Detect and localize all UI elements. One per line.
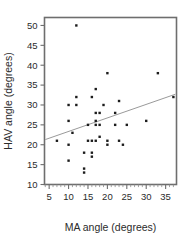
x-tick-label-5: 5 — [47, 191, 52, 202]
y-tick-label-10: 10 — [27, 179, 38, 190]
data-point — [91, 140, 93, 142]
data-point — [56, 140, 58, 142]
data-point — [122, 144, 124, 146]
data-point — [75, 24, 77, 26]
y-axis-title: HAV angle (degrees) — [2, 52, 14, 149]
data-point — [106, 144, 108, 146]
data-point — [75, 96, 77, 98]
x-tick-label-20: 20 — [102, 191, 113, 202]
data-point — [118, 100, 120, 102]
data-point — [91, 96, 93, 98]
data-point — [126, 124, 128, 126]
data-point — [67, 120, 69, 122]
x-tick-label-30: 30 — [141, 191, 152, 202]
data-point — [67, 104, 69, 106]
data-point — [106, 140, 108, 142]
y-tick-label-50: 50 — [27, 20, 38, 31]
data-point — [98, 136, 100, 138]
data-point — [95, 112, 97, 114]
data-point — [87, 140, 89, 142]
y-tick-label-30: 30 — [27, 99, 38, 110]
data-point — [95, 140, 97, 142]
data-point — [114, 124, 116, 126]
data-point — [118, 140, 120, 142]
y-tick-label-40: 40 — [27, 60, 38, 71]
x-tick-label-10: 10 — [63, 191, 74, 202]
data-point — [83, 167, 85, 169]
scatter-plot-figure: 1015202530354045505101520253035MA angle … — [0, 0, 191, 237]
data-point — [67, 144, 69, 146]
y-tick-label-15: 15 — [27, 159, 38, 170]
data-point — [95, 120, 97, 122]
x-tick-label-35: 35 — [160, 191, 171, 202]
x-tick-label-15: 15 — [83, 191, 94, 202]
data-point — [71, 132, 73, 134]
data-point — [98, 112, 100, 114]
x-tick-label-25: 25 — [122, 191, 133, 202]
data-point — [91, 155, 93, 157]
data-point — [106, 72, 108, 74]
data-point — [95, 88, 97, 90]
data-point — [102, 104, 104, 106]
y-tick-label-25: 25 — [27, 119, 38, 130]
data-point — [145, 120, 147, 122]
data-point — [95, 124, 97, 126]
y-tick-label-45: 45 — [27, 40, 38, 51]
data-point — [98, 124, 100, 126]
regression-line — [45, 94, 175, 139]
x-axis-title: MA angle (degrees) — [65, 221, 157, 233]
data-point — [157, 72, 159, 74]
data-point — [114, 112, 116, 114]
data-point — [87, 124, 89, 126]
chart-canvas: 1015202530354045505101520253035MA angle … — [0, 0, 191, 237]
data-point — [172, 96, 174, 98]
data-point — [67, 159, 69, 161]
y-tick-label-20: 20 — [27, 139, 38, 150]
data-point — [83, 171, 85, 173]
y-tick-label-35: 35 — [27, 79, 38, 90]
data-point — [91, 151, 93, 153]
data-point — [75, 104, 77, 106]
data-point — [83, 151, 85, 153]
